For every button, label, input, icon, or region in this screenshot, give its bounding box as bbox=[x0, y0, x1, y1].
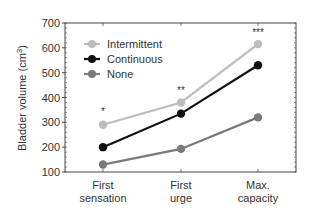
data-point bbox=[99, 121, 107, 129]
data-point bbox=[254, 61, 262, 69]
line-chart: 100200300400500600700 FirstsensationFirs… bbox=[0, 0, 313, 214]
legend-item-intermittent: Intermittent bbox=[84, 38, 162, 50]
data-point bbox=[254, 40, 262, 48]
y-tick-label: 700 bbox=[42, 17, 60, 29]
data-point bbox=[177, 145, 185, 153]
series-none bbox=[99, 113, 262, 169]
y-axis-label: Bladder volume (cm3) bbox=[15, 45, 28, 151]
x-axis-labels: FirstsensationFirsturgeMax.capacity bbox=[79, 179, 278, 204]
x-tick-label: capacity bbox=[238, 192, 279, 204]
data-point bbox=[254, 113, 262, 121]
legend-label: Continuous bbox=[107, 53, 163, 65]
y-tick-label: 300 bbox=[42, 116, 60, 128]
legend-label: Intermittent bbox=[107, 38, 162, 50]
data-point bbox=[177, 109, 185, 117]
data-point bbox=[99, 160, 107, 168]
y-tick-label: 200 bbox=[42, 141, 60, 153]
legend-item-none: None bbox=[84, 68, 133, 80]
legend-item-continuous: Continuous bbox=[84, 53, 163, 65]
legend: IntermittentContinuousNone bbox=[84, 38, 163, 80]
data-point bbox=[177, 98, 185, 106]
x-tick-label: sensation bbox=[79, 192, 126, 204]
x-tick-label: First bbox=[92, 179, 113, 191]
x-tick-label: urge bbox=[170, 192, 192, 204]
legend-label: None bbox=[107, 68, 133, 80]
y-tick-label: 500 bbox=[42, 67, 60, 79]
data-point bbox=[99, 143, 107, 151]
y-axis-ticks: 100200300400500600700 bbox=[42, 17, 65, 178]
y-tick-label: 100 bbox=[42, 166, 60, 178]
x-tick-label: First bbox=[170, 179, 191, 191]
y-tick-label: 600 bbox=[42, 42, 60, 54]
significance-marker: * bbox=[101, 106, 105, 117]
y-tick-label: 400 bbox=[42, 92, 60, 104]
significance-marker: *** bbox=[252, 27, 264, 38]
significance-marker: ** bbox=[177, 85, 185, 96]
x-tick-label: Max. bbox=[246, 179, 270, 191]
